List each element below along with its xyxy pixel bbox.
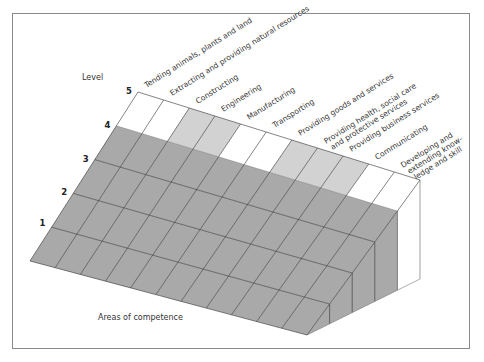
level-label: 1 [40, 218, 46, 228]
y-axis-title: Level [82, 73, 103, 82]
level-label: 4 [104, 120, 110, 130]
area-label-line: Extracting and providing natural resourc… [168, 4, 311, 98]
area-label: Extracting and providing natural resourc… [168, 4, 311, 98]
level-label: 3 [83, 154, 89, 164]
x-axis-title: Areas of competence [98, 313, 183, 322]
competence-level-diagram: Tending animals, plants and landExtracti… [0, 0, 484, 362]
level-label: 5 [126, 86, 132, 96]
level-label: 2 [61, 187, 67, 197]
